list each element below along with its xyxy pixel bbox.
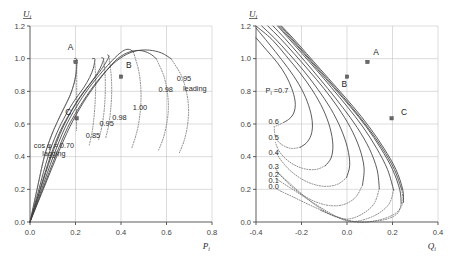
y-tick-label: 0.0 [14,218,25,227]
operating-point-label-a: A [68,42,74,52]
curve-label: Pi =0.7 [266,86,289,96]
axes: -0.4-0.20.00.20.40.00.20.40.60.81.01.2 [240,22,443,237]
curve-label: leading [183,84,207,93]
x-tick-label: -0.2 [295,228,308,237]
x-axis-title-sub: i [434,246,436,252]
operating-point-label-a: A [373,47,379,57]
gridlines [30,26,212,222]
curve-label: 1.00 [133,103,147,112]
x-axis-title: Qi [428,241,437,252]
operating-point-label-b: B [126,60,132,70]
y-tick-label: 0.2 [240,185,251,194]
x-tick-label: 0.4 [433,228,444,237]
operating-point-marker-c [75,117,78,120]
curve-group [30,49,189,222]
y-axis-title-sub: i [256,14,258,20]
y-tick-label: 0.2 [14,185,25,194]
operating-point-marker-c [390,117,393,120]
curve-label: 0.4 [269,148,279,157]
curve-p-0-0 [281,26,402,189]
operating-point-label-c: C [401,107,407,117]
operating-point-marker-a [74,60,77,63]
curve-1-00-unity [30,49,134,222]
curve-p-0-5-dotted [275,142,325,169]
x-axis-title-sub: i [208,246,210,252]
curve-label-suffix: =0.7 [272,86,289,95]
y-tick-label: 0.4 [14,152,25,161]
x-tick-label: 0.4 [116,228,127,237]
x-tick-label: 0.8 [207,228,218,237]
curve-label: 0.0 [269,182,279,191]
annotation-text: lagging [42,149,65,158]
x-tick-label: 0.2 [70,228,81,237]
curve-p-0-0-dotted [275,187,403,222]
x-tick-label: 0.0 [25,228,36,237]
curve-labels: Pi =0.70.60.50.40.30.20.10.0 [266,86,289,191]
curve-label: 0.98 [112,113,126,122]
y-tick-label: 1.2 [14,22,25,31]
chart-panel-right: -0.4-0.20.00.20.40.00.20.40.60.81.01.2Ui… [224,0,449,258]
curve-label: 0.95 [177,74,191,83]
operating-point-label-b: B [341,79,347,89]
curve-p-0-1-dotted [277,179,394,221]
y-tick-label: 0.4 [240,152,251,161]
operating-point-label-c: C [65,107,71,117]
curve-label: 0.5 [269,133,279,142]
curve-0-95-leading-lower [171,59,189,153]
y-tick-label: 0.6 [14,120,25,129]
x-tick-label: -0.4 [249,228,262,237]
y-axis-title-sub: i [30,14,32,20]
curve-label: 0.6 [269,117,279,126]
axes: 0.00.20.40.60.80.00.20.40.60.81.01.2 [14,22,217,237]
y-tick-label: 1.0 [240,54,251,63]
y-tick-label: 0.8 [14,87,25,96]
curve-label: 0.98 [159,85,173,94]
operating-points: ABC [341,47,407,120]
y-tick-label: 0.6 [240,120,251,129]
figure-container: 0.00.20.40.60.80.00.20.40.60.81.01.2UiPi… [0,0,449,258]
curve-label: 0.85 [86,131,100,140]
curve-1-00-lower [132,52,141,148]
x-tick-label: 0.2 [387,228,398,237]
y-tick-label: 0.8 [240,87,251,96]
curve-p-0-7 [256,38,295,123]
y-tick-label: 1.2 [240,22,251,31]
operating-point-marker-a [366,60,369,63]
x-tick-label: 0.6 [161,228,172,237]
y-tick-label: 0.0 [240,218,251,227]
chart-panel-left: 0.00.20.40.60.80.00.20.40.60.81.01.2UiPi… [0,0,224,258]
x-tick-label: 0.0 [342,228,353,237]
y-tick-label: 1.0 [14,54,25,63]
operating-point-marker-b [119,75,122,78]
x-axis-title: Pi [202,241,211,252]
curve-p-0-4-dotted [276,153,347,187]
